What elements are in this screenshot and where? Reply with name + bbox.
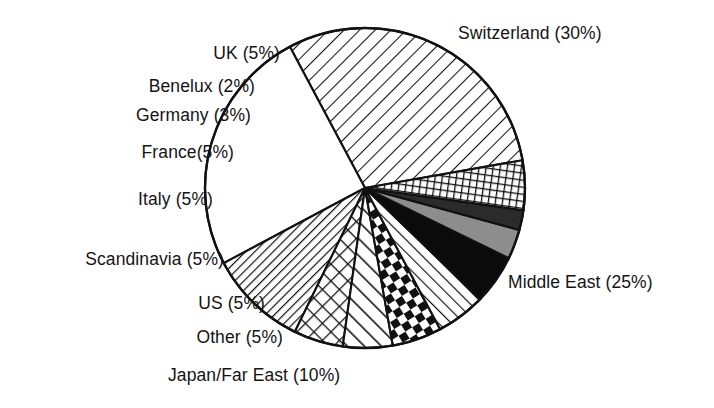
pie-label-other: Other (5%) [196,327,283,347]
pie-label-scandinavia: Scandinavia (5%) [85,249,224,269]
pie-chart-figure: Switzerland (30%) UK (5%) Benelux (2%) G… [0,0,714,408]
pie-label-germany: Germany (3%) [136,105,251,125]
pie-chart-canvas: Switzerland (30%) UK (5%) Benelux (2%) G… [0,0,714,408]
pie-label-japan-far-east: Japan/Far East (10%) [168,365,340,385]
pie-label-italy: Italy (5%) [138,189,213,209]
pie-label-us: US (5%) [198,293,265,313]
pie-label-uk: UK (5%) [213,43,280,63]
pie-label-middle-east: Middle East (25%) [508,272,653,292]
pie-label-benelux: Benelux (2%) [149,76,255,96]
pie-label-switzerland: Switzerland (30%) [458,23,602,43]
pie-label-france: France(5%) [142,142,234,162]
